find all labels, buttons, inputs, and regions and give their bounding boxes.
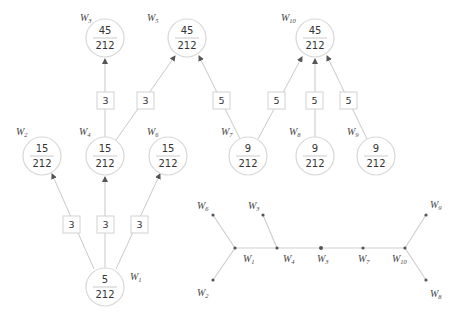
node-label: W9 [347,126,359,138]
node-w1: 5 212 W1 [86,268,142,306]
weight-box: 5 [213,92,230,109]
weight-value: 3 [102,219,108,230]
tree-node-dot [261,213,264,216]
tree-node-dot [211,278,214,281]
node-label: W1 [130,271,142,283]
tree-label: W7 [358,253,370,265]
node-denominator: 212 [158,158,177,169]
tree-node-dot [211,213,214,216]
node-numerator: 15 [99,143,112,154]
node-numerator: 9 [373,143,379,154]
node-w2: 15 212 W2 [16,126,61,175]
node-denominator: 212 [177,40,196,51]
node-label: W8 [289,126,301,138]
weight-box: 3 [131,216,148,233]
node-w4: 15 212 W4 [79,126,124,175]
weight-value: 5 [218,95,224,106]
tree-diagram: W6 W3 W1 W4 W3 W7 W10 W2 W9 W8 [197,199,442,300]
weight-value: 3 [102,95,108,106]
node-label: W10 [281,12,297,24]
weight-value: 5 [273,95,279,106]
node-w7: 9 212 W7 [221,126,267,175]
tree-node-dot [233,246,236,249]
node-numerator: 45 [99,25,112,36]
weight-value: 3 [68,219,74,230]
tree-label: W4 [283,253,295,265]
tree-node-dot [424,278,427,281]
tree-label: W10 [392,253,408,265]
tree-label: W3 [317,253,329,265]
node-numerator: 45 [309,25,322,36]
tree-label: W3 [248,200,260,212]
node-w8: 9 212 W8 [289,126,334,175]
weight-box: 5 [340,92,357,109]
node-label: W7 [221,126,233,138]
tree-node-dot [319,246,323,250]
node-denominator: 212 [305,158,324,169]
tree-node-dot [275,246,278,249]
node-denominator: 212 [95,158,114,169]
tree-node-dot [361,246,364,249]
tree-label: W1 [243,253,255,265]
node-w9: 9 212 W9 [347,126,395,175]
node-denominator: 212 [305,40,324,51]
node-numerator: 9 [312,143,318,154]
node-numerator: 15 [36,143,49,154]
node-label: W4 [79,126,91,138]
tree-label: W6 [197,200,209,212]
node-denominator: 212 [32,158,51,169]
node-label: W6 [147,126,159,138]
node-label: W2 [16,126,28,138]
node-w6: 15 212 W6 [147,126,187,175]
diagram-canvas: 3 3 5 5 5 5 3 3 [0,0,457,316]
tree-label: W9 [430,199,442,211]
node-numerator: 5 [102,274,108,285]
weight-box: 3 [137,92,154,109]
node-w5: 45 212 W5 [147,12,206,57]
node-denominator: 212 [366,158,385,169]
node-denominator: 212 [95,40,114,51]
weight-box: 3 [97,216,114,233]
node-numerator: 45 [181,25,194,36]
node-denominator: 212 [95,289,114,300]
weight-box: 5 [306,92,323,109]
tree-label: W8 [430,288,442,300]
tree-node-dot [403,246,406,249]
node-w10: 45 212 W10 [281,12,334,57]
tree-label: W2 [197,287,209,299]
tree-node-dot [424,213,427,216]
weight-value: 5 [345,95,351,106]
node-numerator: 9 [245,143,251,154]
weight-box: 5 [268,92,285,109]
node-label: W3 [80,12,92,24]
weight-value: 3 [142,95,148,106]
weight-box: 3 [97,92,114,109]
node-w3: 45 212 W3 [80,12,124,57]
node-denominator: 212 [238,158,257,169]
node-label: W5 [147,12,159,24]
weight-value: 3 [136,219,142,230]
node-numerator: 15 [162,143,175,154]
weight-value: 5 [311,95,317,106]
weight-box: 3 [63,216,80,233]
